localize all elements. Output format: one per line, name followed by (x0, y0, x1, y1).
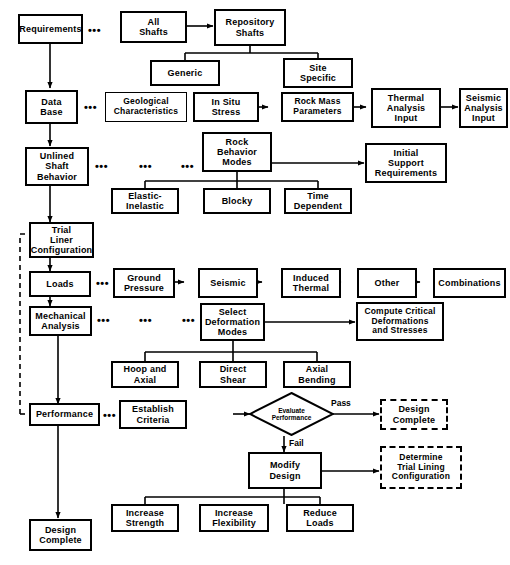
node-rock-mass-parameters[interactable]: Rock Mass Parameters (281, 92, 354, 122)
node-increase-strength[interactable]: Increase Strength (111, 504, 179, 532)
node-geological-characteristics[interactable]: Geological Characteristics (105, 92, 187, 122)
node-rock-behavior-modes[interactable]: Rock Behavior Modes (202, 132, 272, 172)
node-seismic[interactable]: Seismic (198, 268, 258, 298)
node-select-deformation-modes[interactable]: Select Deformation Modes (200, 303, 265, 341)
ellipsis-unlined-1: ••• (95, 161, 108, 172)
ellipsis-performance: ••• (103, 410, 116, 421)
ellipsis-unlined-2: ••• (139, 161, 152, 172)
node-site-specific[interactable]: Site Specific (283, 58, 353, 88)
ellipsis-mech-3: ••• (182, 315, 195, 326)
node-increase-flexibility[interactable]: Increase Flexibility (199, 504, 269, 532)
node-determine-trial-lining[interactable]: Determine Trial Lining Configuration (380, 446, 462, 489)
node-requirements[interactable]: Requirements (18, 14, 83, 44)
ellipsis-data-base: ••• (84, 102, 97, 113)
node-thermal-analysis-input[interactable]: Thermal Analysis Input (371, 88, 441, 128)
ellipsis-loads: ••• (96, 278, 109, 289)
node-design-complete-bottom[interactable]: Design Complete (29, 519, 92, 551)
node-induced-thermal[interactable]: Induced Thermal (281, 268, 341, 298)
node-seismic-analysis-input[interactable]: Seismic Analysis Input (459, 88, 508, 128)
node-time-dependent[interactable]: Time Dependent (284, 188, 352, 214)
ellipsis-mech-1: ••• (97, 315, 110, 326)
node-trial-liner-configuration[interactable]: Trial Liner Configuration (29, 222, 94, 258)
node-initial-support-requirements[interactable]: Initial Support Requirements (365, 143, 447, 183)
node-other[interactable]: Other (357, 268, 417, 298)
flowchart-canvas: Requirements ••• All Shafts Repository S… (0, 0, 510, 565)
node-generic[interactable]: Generic (150, 60, 220, 86)
edge-label-pass: Pass (330, 398, 352, 408)
evaluate-performance-label: Evaluate Performance (249, 407, 334, 421)
node-hoop-and-axial[interactable]: Hoop and Axial (111, 361, 179, 388)
node-all-shafts[interactable]: All Shafts (120, 11, 187, 43)
node-performance[interactable]: Performance (29, 403, 100, 426)
node-compute-critical-deformations[interactable]: Compute Critical Deformations and Stress… (356, 302, 444, 341)
node-reduce-loads[interactable]: Reduce Loads (286, 504, 354, 532)
edge-label-fail: Fail (288, 438, 305, 448)
node-blocky[interactable]: Blocky (203, 188, 271, 214)
node-unlined-shaft-behavior[interactable]: Unlined Shaft Behavior (25, 147, 89, 186)
node-elastic-inelastic[interactable]: Elastic- Inelastic (111, 188, 179, 214)
node-loads[interactable]: Loads (29, 271, 91, 297)
ellipsis-unlined-3: ••• (181, 161, 194, 172)
node-in-situ-stress[interactable]: In Situ Stress (193, 92, 259, 122)
ellipsis-mech-2: ••• (139, 315, 152, 326)
node-evaluate-performance[interactable]: Evaluate Performance (249, 392, 334, 436)
ellipsis-requirements: ••• (88, 25, 101, 36)
node-ground-pressure[interactable]: Ground Pressure (113, 268, 175, 298)
node-combinations[interactable]: Combinations (433, 268, 506, 298)
node-modify-design[interactable]: Modify Design (248, 452, 322, 489)
node-axial-bending[interactable]: Axial Bending (283, 361, 351, 388)
node-design-complete-right[interactable]: Design Complete (380, 399, 448, 430)
node-data-base[interactable]: Data Base (25, 90, 78, 124)
node-repository-shafts[interactable]: Repository Shafts (214, 9, 286, 46)
node-establish-criteria[interactable]: Establish Criteria (119, 400, 187, 429)
node-mechanical-analysis[interactable]: Mechanical Analysis (29, 306, 92, 336)
node-direct-shear[interactable]: Direct Shear (199, 361, 267, 388)
